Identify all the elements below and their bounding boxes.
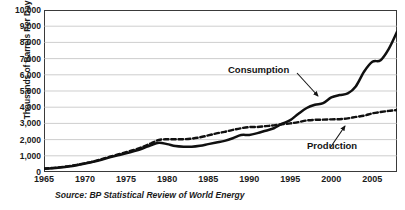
x-tick-label: 1985 bbox=[186, 174, 230, 184]
x-tick-label: 1995 bbox=[268, 174, 312, 184]
oil-consumption-production-chart: Thousands of Barrels Per Day 10,0009,000… bbox=[0, 0, 405, 210]
consumption-series-label: Consumption bbox=[228, 64, 289, 75]
x-tick-label: 1970 bbox=[63, 174, 107, 184]
production-series-label: Production bbox=[307, 140, 357, 151]
x-tick-label: 1975 bbox=[104, 174, 148, 184]
x-tick-label: 1965 bbox=[22, 174, 66, 184]
x-tick-label: 2005 bbox=[350, 174, 394, 184]
source-note: Source: BP Statistical Review of World E… bbox=[55, 190, 245, 200]
x-tick-label: 1990 bbox=[227, 174, 271, 184]
x-tick-label: 1980 bbox=[145, 174, 189, 184]
x-tick-label: 2000 bbox=[309, 174, 353, 184]
gridlines bbox=[44, 26, 397, 156]
